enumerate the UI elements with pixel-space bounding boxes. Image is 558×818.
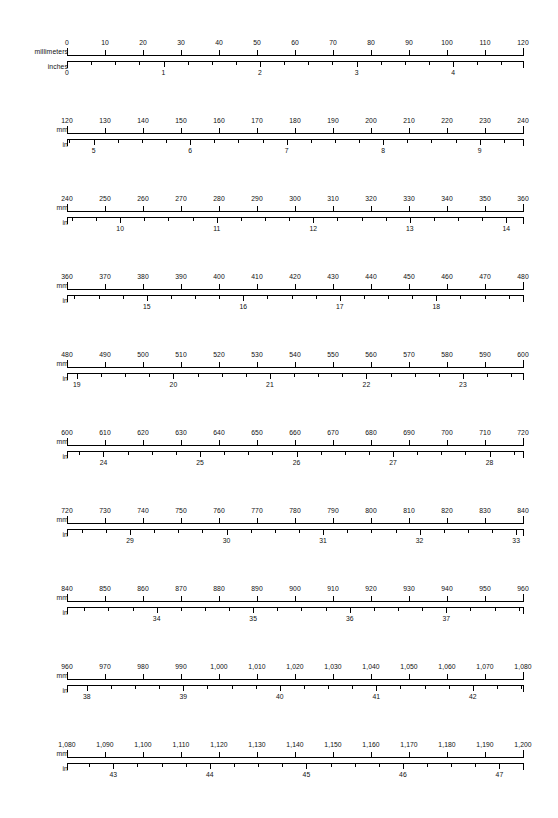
inches-tick [342,373,343,377]
mm-tick [409,362,410,368]
mm-scale: 240250260270280290300310320330340350360 [67,202,523,212]
mm-tick-label: 370 [99,273,111,281]
inches-tick [460,295,461,299]
inches-tick [212,61,213,65]
inches-scale: 3839404142 [67,685,523,695]
inches-tick [398,607,399,611]
mm-tick [181,674,182,680]
inches-tick [468,529,469,533]
mm-tick [485,362,486,368]
mm-tick-label: 730 [99,507,111,515]
inches-endcap-right [523,295,524,302]
inches-tick [521,685,522,689]
inches-tick-label: 37 [442,615,450,623]
mm-tick-label: 120 [61,117,73,125]
inches-tick [388,295,389,299]
inches-tick [427,763,428,767]
mm-tick [219,284,220,290]
mm-tick-label: 940 [441,585,453,593]
inches-tick [289,217,290,221]
mm-tick-label: 870 [175,585,187,593]
inches-tick [501,61,502,65]
inches-tick [490,451,491,457]
inches-tick-label: 22 [363,381,371,389]
mm-tick-label: 100 [441,39,453,47]
inches-tick [465,451,466,455]
inches-tick-label: 5 [92,147,96,155]
mm-tick [181,596,182,602]
inches-tick-label: 11 [213,225,220,233]
inches-tick [188,61,189,65]
inches-tick-label: 29 [126,537,134,545]
inches-tick [509,295,510,299]
ruler-row: mmin720730740750760770780790800810820830… [0,496,558,568]
inches-endcap-right [523,139,524,146]
mm-tick [181,518,182,524]
mm-tick-label: 270 [175,195,187,203]
mm-tick-label: 560 [365,351,377,359]
mm-tick [447,206,448,212]
mm-tick [523,360,524,368]
mm-tick [257,752,258,758]
inches-tick [297,451,298,457]
mm-tick-label: 950 [479,585,491,593]
mm-tick-label: 650 [251,429,263,437]
inches-tick [458,217,459,221]
mm-tick-label: 380 [137,273,149,281]
mm-axis-label: mm [0,594,68,601]
mm-tick-label: 230 [479,117,491,125]
inches-tick-label: 28 [486,459,494,467]
inches-endcap-left [67,763,68,770]
mm-tick [105,440,106,446]
inches-tick [238,139,239,143]
mm-tick-label: 570 [403,351,415,359]
mm-tick [257,518,258,524]
inches-tick-label: 44 [206,771,214,779]
mm-tick-label: 1,050 [400,663,417,671]
inches-tick [386,217,387,221]
mm-tick [409,674,410,680]
mm-tick [181,50,182,56]
mm-tick-label: 530 [251,351,263,359]
inches-tick [451,763,452,767]
mm-tick [257,128,258,134]
inches-tick [260,61,261,67]
inches-tick [487,373,488,377]
inches-tick [234,763,235,767]
inches-axis-label: in [0,297,68,304]
inches-tick [176,451,177,455]
inches-tick-label: 17 [336,303,344,311]
mm-tick [219,440,220,446]
inches-tick [193,217,194,221]
mm-tick-label: 970 [99,663,111,671]
inches-tick [453,61,454,67]
inches-baseline [67,529,523,530]
inches-endcap-left [67,529,68,536]
mm-tick [219,596,220,602]
mm-tick-label: 300 [289,195,301,203]
mm-tick-label: 130 [99,117,111,125]
mm-tick [371,362,372,368]
mm-tick-label: 540 [289,351,301,359]
ruler-conversion-chart: millimetersinches01020304050607080901001… [0,0,558,818]
inches-tick [232,685,233,689]
inches-tick [246,373,247,377]
mm-tick [371,674,372,680]
mm-tick-label: 450 [403,273,415,281]
mm-axis-label: mm [0,438,68,445]
mm-tick-label: 620 [137,429,149,437]
mm-tick-label: 670 [327,429,339,437]
mm-tick-label: 960 [61,663,73,671]
mm-tick-label: 480 [61,351,73,359]
mm-tick-label: 750 [175,507,187,515]
inches-tick [292,295,293,299]
inches-tick [251,529,252,533]
inches-endcap-left [67,685,68,692]
mm-tick [447,518,448,524]
inches-tick-label: 6 [188,147,192,155]
mm-tick-label: 510 [175,351,187,359]
mm-tick-label: 1,110 [173,741,190,749]
mm-scale: 360370380390400410420430440450460470480 [67,280,523,290]
inches-scale: 56789 [67,139,523,149]
inches-axis-label: in [0,687,68,694]
